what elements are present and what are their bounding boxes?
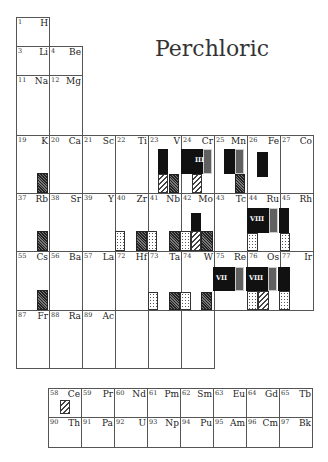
- atomic-number: 57: [84, 253, 92, 260]
- element-cell-fr: 87Fr: [16, 310, 50, 369]
- element-symbol: Re: [234, 252, 246, 262]
- element-symbol: Pm: [164, 389, 179, 399]
- element-cell-pr: 59Pr: [81, 388, 115, 418]
- atomic-number: 39: [84, 195, 92, 202]
- element-cell-np: 93Np: [147, 417, 181, 448]
- mn-mark-gray: [235, 149, 244, 174]
- element-symbol: Ba: [69, 252, 81, 262]
- element-symbol: Eu: [233, 389, 245, 399]
- atomic-number: 74: [183, 253, 191, 260]
- element-symbol: Rh: [299, 194, 312, 204]
- mn-mark-dense: [235, 174, 245, 193]
- atomic-number: 75: [216, 253, 224, 260]
- element-symbol: Mn: [231, 136, 246, 146]
- y-mark-dots: [115, 231, 125, 251]
- atomic-number: 97: [281, 419, 289, 426]
- atomic-number: 19: [18, 137, 26, 144]
- atomic-number: 60: [116, 390, 124, 397]
- element-cell-ac: 89Ac: [82, 310, 116, 369]
- element-cell-y: 39Y: [82, 193, 116, 252]
- element-symbol: Co: [300, 136, 312, 146]
- cs-mark-dense: [37, 290, 48, 310]
- k-mark-dense: [37, 173, 48, 193]
- element-symbol: La: [103, 252, 114, 262]
- element-symbol: Mg: [66, 76, 81, 86]
- element-cell-be: 4Be: [49, 46, 83, 76]
- element-cell-sm: 62Sm: [180, 388, 214, 418]
- atomic-number: 3: [18, 48, 22, 55]
- element-symbol: Cm: [263, 418, 278, 428]
- atomic-number: 64: [248, 390, 256, 397]
- atomic-number: 91: [83, 419, 91, 426]
- atomic-number: 25: [216, 137, 224, 144]
- atomic-number: 42: [183, 195, 191, 202]
- element-cell-gd: 64Gd: [246, 388, 280, 418]
- atomic-number: 92: [116, 419, 124, 426]
- w-mark-dense: [201, 292, 212, 310]
- element-cell-h: 1H: [16, 17, 50, 47]
- element-cell-u: 92U: [114, 417, 148, 448]
- atomic-number: 44: [249, 195, 257, 202]
- element-symbol: Ir: [304, 252, 312, 262]
- element-cell-sr: 38Sr: [49, 193, 83, 252]
- v-mark-dense: [169, 174, 179, 193]
- atomic-number: 87: [18, 312, 26, 319]
- zr-mark-dense: [136, 231, 147, 251]
- element-cell-empty: [148, 310, 182, 369]
- element-cell-pm: 61Pm: [147, 388, 181, 418]
- mo-mark-hatch: [191, 231, 201, 251]
- element-symbol: Tc: [236, 194, 246, 204]
- element-cell-ba: 56Ba: [49, 251, 83, 311]
- element-cell-tc: 43Tc: [214, 193, 248, 252]
- element-symbol: Th: [68, 418, 80, 428]
- atomic-number: 76: [249, 253, 257, 260]
- element-cell-bk: 97Bk: [279, 417, 313, 448]
- atomic-number: 56: [51, 253, 59, 260]
- atomic-number: 63: [215, 390, 223, 397]
- atomic-number: 26: [249, 137, 257, 144]
- atomic-number: 23: [150, 137, 158, 144]
- element-symbol: Zr: [136, 194, 147, 204]
- element-symbol: Bk: [299, 418, 311, 428]
- element-cell-sc: 21Sc: [82, 135, 116, 194]
- element-symbol: Be: [69, 47, 81, 57]
- rb-mark-dense: [37, 231, 48, 251]
- element-symbol: Ca: [69, 136, 81, 146]
- element-symbol: K: [41, 136, 48, 146]
- element-symbol: Ti: [138, 136, 147, 146]
- element-cell-empty: [115, 310, 149, 369]
- element-symbol: Rb: [35, 194, 48, 204]
- ce-mark-hatch: [60, 400, 70, 414]
- atomic-number: 21: [84, 137, 92, 144]
- element-symbol: Sc: [103, 136, 114, 146]
- element-symbol: Hf: [136, 252, 147, 262]
- atomic-number: 58: [50, 390, 58, 397]
- atomic-number: 37: [18, 195, 26, 202]
- element-cell-mg: 12Mg: [49, 75, 83, 136]
- atomic-number: 45: [282, 195, 290, 202]
- element-symbol: V: [174, 136, 181, 146]
- element-symbol: Tb: [299, 389, 311, 399]
- v-mark-hatch: [158, 174, 168, 193]
- element-symbol: Cs: [36, 252, 48, 262]
- nb-mark-dense: [169, 231, 180, 251]
- element-symbol: Fr: [37, 311, 48, 321]
- atomic-number: 72: [117, 253, 125, 260]
- atomic-number: 11: [18, 77, 26, 84]
- atomic-number: 62: [182, 390, 190, 397]
- element-cell-na: 11Na: [16, 75, 50, 136]
- element-cell-tb: 65Tb: [279, 388, 313, 418]
- mn-mark-solid: [224, 149, 235, 174]
- atomic-number: 90: [50, 419, 58, 426]
- os-mark-gray: [268, 267, 277, 291]
- os-mark-dots: [247, 291, 258, 310]
- element-symbol: Ac: [102, 311, 114, 321]
- rh-mark-dots: [280, 233, 290, 251]
- element-symbol: Am: [230, 418, 245, 428]
- page-title: Perchloric: [155, 36, 269, 61]
- atomic-number: 61: [149, 390, 157, 397]
- ta-mark-dense: [169, 292, 180, 310]
- fe-mark-solid: [257, 152, 268, 177]
- element-cell-cm: 96Cm: [246, 417, 280, 448]
- cr-oxidation-label: III: [195, 157, 204, 164]
